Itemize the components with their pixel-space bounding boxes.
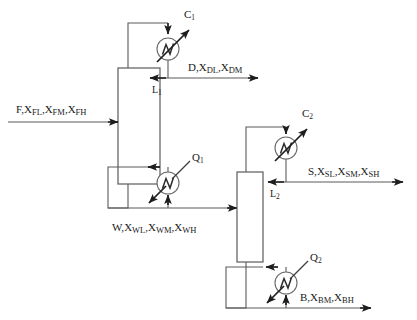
column-2-shell: [237, 172, 263, 262]
x-symbol-sl: X: [317, 165, 325, 177]
sub-DL: DL: [207, 65, 218, 75]
x-symbol-fh: X: [68, 103, 76, 115]
reboiler-1-duty-in: [172, 161, 190, 179]
x-symbol-dl: X: [199, 61, 207, 73]
condenser-2-duty-sub: 2: [309, 112, 313, 121]
waste-base-text: W,: [112, 221, 124, 233]
condenser-1-duty-sub: 1: [191, 13, 195, 22]
reboiler-1-duty-sub: 1: [200, 156, 204, 165]
sub-FL: FL: [32, 107, 42, 117]
sub-WM: WM: [156, 225, 172, 235]
reboiler-2-duty-base: Q: [310, 251, 318, 263]
process-flow-diagram: C1 D,XDL,XDM L1 F,XFL,XFM,XFH Q1 C2 S,XS…: [0, 0, 417, 320]
distillate-base-text: D,: [188, 61, 199, 73]
reboiler-2-duty-in: [290, 261, 308, 279]
x-symbol-fm: X: [45, 103, 53, 115]
sub-SM: SM: [345, 169, 357, 179]
sub-FH: FH: [76, 107, 87, 117]
sub-DM: DM: [229, 65, 243, 75]
sidestream-2-label: S,XSL,XSM,XSH: [308, 166, 379, 177]
sub-SH: SH: [368, 169, 379, 179]
x-symbol-wm: X: [148, 221, 156, 233]
bottoms-1-label: W,XWL,XWM,XWH: [112, 222, 196, 233]
reboiler-2-duty-label: Q2: [310, 252, 322, 263]
x-symbol-dm: X: [221, 61, 229, 73]
column-2-bottom-loop: [226, 262, 263, 308]
x-symbol-bm: X: [310, 291, 318, 303]
reflux-1-sub: 1: [158, 88, 162, 97]
feed-label: F,XFL,XFM,XFH: [16, 104, 86, 115]
reflux-1-label: L1: [152, 85, 162, 95]
reboiler-1-duty-out-arrow: [149, 186, 166, 203]
sub-BH: BH: [342, 295, 354, 305]
x-symbol-wl: X: [124, 221, 132, 233]
reboiler-1-duty-base: Q: [192, 151, 200, 163]
x-symbol-bh: X: [334, 291, 342, 303]
reboiler-1-duty-label: Q1: [192, 152, 204, 163]
condenser-2-duty-label: C2: [302, 108, 313, 119]
side-base-text: S,: [308, 165, 317, 177]
condenser-1-duty-label: C1: [184, 9, 195, 20]
distillate-1-label: D,XDL,XDM: [188, 62, 242, 73]
sub-BM: BM: [318, 295, 331, 305]
sub-WL: WL: [132, 225, 145, 235]
x-symbol-fl: X: [24, 103, 32, 115]
flowsheet-canvas: [0, 0, 417, 320]
reflux-2-label: L2: [270, 189, 280, 199]
reflux-2-sub: 2: [276, 192, 280, 201]
bottoms-2-label: B,XBM,XBH: [300, 292, 354, 303]
reboiler-2-duty-sub: 2: [318, 256, 322, 265]
sub-WH: WH: [182, 225, 196, 235]
sub-FM: FM: [53, 107, 65, 117]
bottom-base-text: B,: [300, 291, 310, 303]
sub-SL: SL: [325, 169, 335, 179]
feed-base-text: F,: [16, 103, 24, 115]
reboiler-2-duty-out-arrow: [267, 286, 284, 303]
